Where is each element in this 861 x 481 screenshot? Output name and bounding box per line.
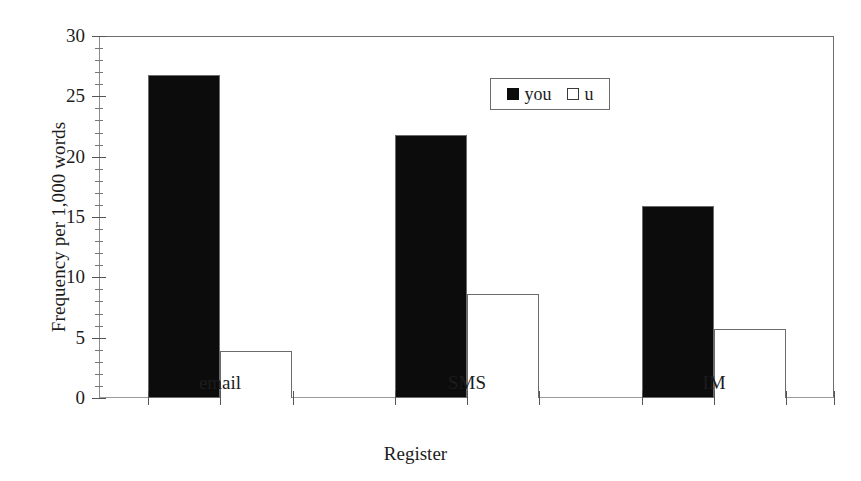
x-axis-title-text: Register [384, 443, 447, 464]
y-tick-major [92, 157, 106, 158]
y-tick-minor [95, 84, 103, 85]
y-tick-label: 25 [25, 86, 85, 105]
y-tick-minor [95, 145, 103, 146]
legend-item-u: u [567, 84, 594, 105]
bar-chart-figure: Frequency per 1,000 words 051015202530 e… [0, 0, 861, 481]
y-tick-major [92, 217, 106, 218]
y-tick-minor [95, 48, 103, 49]
y-tick-label: 20 [25, 147, 85, 166]
y-tick-minor [95, 326, 103, 327]
y-tick-minor [95, 133, 103, 134]
y-tick-major [92, 398, 106, 399]
plot-frame-right [833, 36, 834, 398]
x-tick-label-email: email [160, 372, 280, 394]
y-tick-major [92, 277, 106, 278]
x-tick-label-SMS: SMS [407, 372, 527, 394]
bar-IM-you [642, 206, 714, 398]
y-tick-label: 15 [25, 207, 85, 226]
y-tick-minor [95, 205, 103, 206]
y-tick-minor [95, 193, 103, 194]
y-tick-minor [95, 314, 103, 315]
plot-area: 051015202530 [99, 36, 834, 398]
y-tick-minor [95, 350, 103, 351]
x-tick-major [539, 391, 540, 405]
open-square-icon [567, 88, 579, 100]
legend-item-you: you [507, 84, 552, 105]
y-tick-minor [95, 265, 103, 266]
y-tick-label: 10 [25, 267, 85, 286]
y-tick-label: 30 [25, 26, 85, 45]
filled-square-icon [507, 88, 519, 100]
y-tick-label: 0 [25, 388, 85, 407]
y-tick-major [92, 96, 106, 97]
x-tick-major [395, 391, 396, 405]
x-tick-major [834, 391, 835, 405]
y-tick-minor [95, 72, 103, 73]
y-tick-minor [95, 120, 103, 121]
chart-legend: you u [490, 78, 610, 110]
y-tick-minor [95, 108, 103, 109]
x-tick-major [786, 391, 787, 405]
y-tick-minor [95, 301, 103, 302]
y-tick-minor [95, 181, 103, 182]
x-axis-title: Register [0, 443, 861, 465]
y-tick-major [92, 338, 106, 339]
x-tick-major [293, 391, 294, 405]
y-tick-minor [95, 362, 103, 363]
y-tick-minor [95, 229, 103, 230]
y-tick-minor [95, 289, 103, 290]
x-tick-major [148, 391, 149, 405]
y-tick-minor [95, 253, 103, 254]
plot-frame-top [99, 36, 834, 37]
y-tick-minor [95, 60, 103, 61]
y-tick-minor [95, 374, 103, 375]
bar-SMS-you [395, 135, 467, 398]
legend-label-u: u [585, 84, 594, 105]
x-tick-label-IM: IM [654, 372, 774, 394]
y-tick-minor [95, 386, 103, 387]
bar-email-you [148, 75, 220, 398]
y-tick-major [92, 36, 106, 37]
y-tick-label: 5 [25, 328, 85, 347]
x-tick-major [642, 391, 643, 405]
y-tick-minor [95, 169, 103, 170]
legend-label-you: you [525, 84, 552, 105]
y-tick-minor [95, 241, 103, 242]
